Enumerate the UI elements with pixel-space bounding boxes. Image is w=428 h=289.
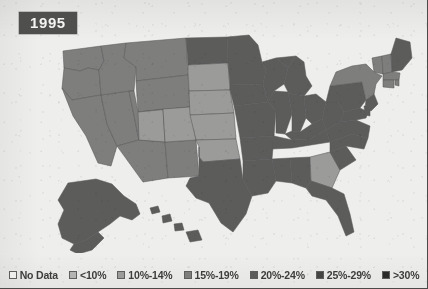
legend-item: >30% [382,270,419,281]
legend: No Data<10%10%-14%15%-19%20%-24%25%-29%>… [0,270,428,281]
state-HI3[interactable] [174,223,184,231]
legend-label: 10%-14% [128,270,172,281]
map-figure: 1995 [0,0,428,289]
state-FL[interactable] [306,181,354,236]
legend-swatch [9,271,17,279]
state-OK[interactable] [196,139,240,162]
legend-item: 25%-29% [316,270,371,281]
legend-swatch [117,271,125,279]
legend-swatch [382,271,390,279]
state-NE[interactable] [189,90,234,115]
state-VT[interactable] [372,56,383,74]
legend-swatch [184,271,192,279]
state-HI4[interactable] [186,230,202,242]
state-HI2[interactable] [162,214,172,223]
state-CT[interactable] [383,80,394,88]
us-choropleth-map [0,18,428,253]
legend-swatch [69,271,77,279]
state-WY[interactable] [136,75,190,112]
state-AR[interactable] [240,136,274,161]
us-map-svg [0,18,428,253]
state-shapes [58,35,412,253]
state-WA[interactable] [63,46,104,71]
legend-label: 25%-29% [327,270,371,281]
legend-item: No Data [9,270,58,281]
state-MA[interactable] [383,72,400,80]
state-MO[interactable] [234,102,276,138]
state-AZ[interactable] [117,140,168,182]
state-MN[interactable] [227,35,266,85]
state-AL[interactable] [290,157,311,188]
state-ND[interactable] [186,37,228,65]
state-KS[interactable] [190,113,236,140]
state-NM[interactable] [165,140,199,178]
legend-item: <10% [69,270,106,281]
state-SD[interactable] [188,63,230,91]
state-HI1[interactable] [150,206,160,214]
legend-label: 15%-19% [195,270,239,281]
legend-swatch [316,271,324,279]
legend-label: No Data [20,270,58,281]
legend-label: >30% [393,270,419,281]
legend-item: 20%-24% [250,270,305,281]
legend-label: 20%-24% [261,270,305,281]
legend-swatch [250,271,258,279]
year-badge: 1995 [19,12,77,34]
state-RI[interactable] [395,80,399,86]
legend-item: 10%-14% [117,270,172,281]
state-ME[interactable] [391,38,412,72]
legend-item: 15%-19% [184,270,239,281]
legend-label: <10% [80,270,106,281]
state-NH[interactable] [382,54,392,74]
